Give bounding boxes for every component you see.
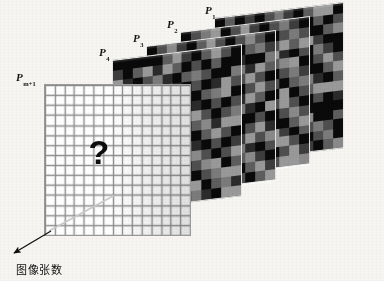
panel-label-p1-sub: 1	[212, 13, 215, 20]
panel-label-p1-base: P	[205, 4, 212, 16]
panel-label-p3-sub: 3	[140, 41, 143, 48]
panel-label-p1: P1	[205, 4, 215, 18]
panel-label-p4: P4	[99, 46, 109, 60]
depth-axis-caption: 图像张数	[16, 261, 62, 277]
panel-label-p2: P2	[167, 18, 177, 32]
panel-label-p2-base: P	[167, 18, 174, 30]
panel-label-p4-sub: 4	[106, 55, 109, 62]
question-mark-glyph: ?	[89, 135, 110, 169]
panel-label-pfront-base: P	[16, 71, 23, 83]
figure-canvas: ? P1 P2 P3 P4 Pm+1 图像张数	[0, 0, 384, 281]
depth-axis-arrow-icon	[0, 218, 70, 266]
panel-label-p4-base: P	[99, 46, 106, 58]
panel-label-p3: P3	[133, 32, 143, 46]
unknown-image-panel: ?	[44, 84, 191, 236]
front-panel-grid	[45, 85, 190, 235]
panel-label-p3-base: P	[133, 32, 140, 44]
panel-label-p-m-plus-1: Pm+1	[16, 71, 35, 85]
panel-label-pfront-sub: m+1	[23, 80, 35, 87]
panel-label-p2-sub: 2	[174, 27, 177, 34]
